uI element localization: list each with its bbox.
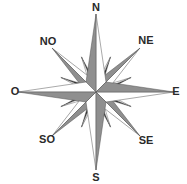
label-west: O bbox=[11, 85, 20, 97]
label-southeast: SE bbox=[139, 134, 154, 146]
label-north: N bbox=[92, 1, 100, 13]
label-southwest: SO bbox=[39, 133, 55, 145]
compass-rose: N NE E SE S SO O NO bbox=[0, 0, 187, 184]
label-northwest: NO bbox=[40, 35, 57, 47]
label-northeast: NE bbox=[138, 34, 153, 46]
label-south: S bbox=[92, 171, 99, 183]
label-east: E bbox=[172, 85, 179, 97]
